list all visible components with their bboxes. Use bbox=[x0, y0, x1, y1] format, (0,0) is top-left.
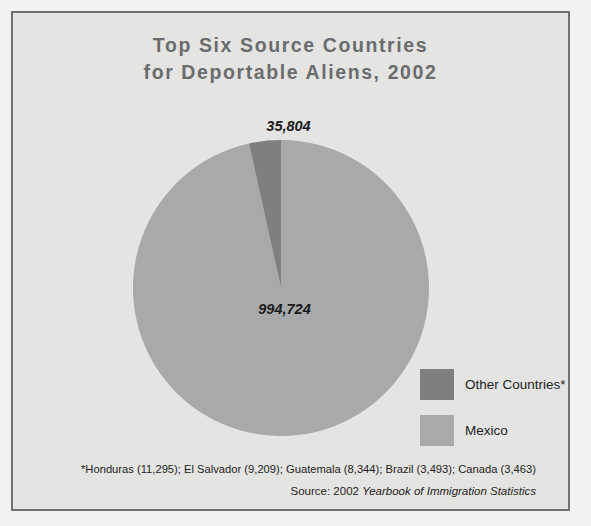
legend-label-other-countries: Other Countries* bbox=[465, 377, 566, 392]
source-publication: Yearbook of Immigration Statistics bbox=[362, 485, 536, 497]
legend-item-mexico[interactable]: Mexico bbox=[420, 414, 570, 446]
legend-swatch-other-countries bbox=[420, 369, 454, 400]
legend: Other Countries* Mexico bbox=[420, 368, 570, 460]
pie-chart bbox=[133, 140, 429, 436]
source-prefix: Source: 2002 bbox=[291, 485, 363, 497]
source-note: Source: 2002 Yearbook of Immigration Sta… bbox=[291, 485, 536, 497]
footnote: *Honduras (11,295); El Salvador (9,209);… bbox=[81, 463, 536, 475]
chart-frame: Top Six Source Countries for Deportable … bbox=[11, 11, 570, 511]
legend-label-mexico: Mexico bbox=[465, 423, 508, 438]
page-title: Top Six Source Countries for Deportable … bbox=[13, 32, 568, 86]
legend-item-other-countries[interactable]: Other Countries* bbox=[420, 368, 570, 400]
pie-chart-svg bbox=[133, 140, 429, 436]
pie-label-mexico: 994,724 bbox=[13, 301, 591, 317]
legend-swatch-mexico bbox=[420, 415, 454, 446]
pie-label-other-countries: 35,804 bbox=[13, 118, 591, 134]
